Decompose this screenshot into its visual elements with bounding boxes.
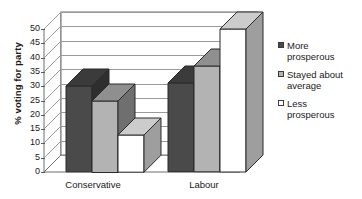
legend-label-line1: Less — [287, 98, 307, 109]
legend-item-stayed-about-average: Stayed about average — [278, 69, 362, 91]
legend-label: Stayed about average — [287, 69, 343, 91]
y-axis-tick-mark — [41, 172, 45, 173]
x-axis-label-conservative: Conservative — [38, 180, 148, 190]
y-axis-tick-label: 5 — [18, 153, 40, 162]
bar-conservative-stayed-about-average — [92, 101, 118, 173]
legend-swatch-icon — [278, 71, 284, 77]
bar-conservative-less-prosperous — [118, 135, 144, 172]
bar-conservative-more-prosperous — [66, 86, 92, 172]
x-axis-label-labour: Labour — [154, 180, 254, 190]
legend-label-line1: Stayed about — [287, 69, 343, 80]
legend-label-line1: More — [287, 40, 309, 51]
y-axis-tick-label: 45 — [18, 38, 40, 47]
bar-labour-stayed-about-average — [194, 66, 220, 172]
legend-label-line2: prosperous — [287, 109, 335, 120]
y-axis-tick-label: 0 — [18, 167, 40, 176]
legend-label-line2: average — [287, 80, 321, 91]
y-axis-tick-label: 50 — [18, 24, 40, 33]
bar-chart: % voting for party 05101520253035404550 … — [0, 0, 362, 199]
bar-labour-more-prosperous — [168, 83, 194, 172]
y-axis-tick-label: 40 — [18, 53, 40, 62]
legend-item-less-prosperous: Less prosperous — [278, 98, 362, 120]
y-axis-tick-label: 10 — [18, 138, 40, 147]
y-axis-tick-label: 35 — [18, 67, 40, 76]
y-axis-tick-label: 30 — [18, 81, 40, 90]
legend-label: Less prosperous — [287, 98, 335, 120]
legend-label: More prosperous — [287, 40, 335, 62]
y-axis-tick-label: 20 — [18, 110, 40, 119]
bar-labour-less-prosperous — [220, 29, 246, 172]
plot-area: 05101520253035404550 Conservative Labour — [44, 12, 257, 172]
legend: More prosperous Stayed about average Les… — [278, 40, 362, 127]
legend-swatch-icon — [278, 100, 284, 106]
legend-swatch-icon — [278, 42, 284, 48]
bar-series-layer — [44, 12, 257, 172]
y-axis-tick-label: 15 — [18, 124, 40, 133]
legend-label-line2: prosperous — [287, 51, 335, 62]
y-axis-tick-label: 25 — [18, 96, 40, 105]
legend-item-more-prosperous: More prosperous — [278, 40, 362, 62]
